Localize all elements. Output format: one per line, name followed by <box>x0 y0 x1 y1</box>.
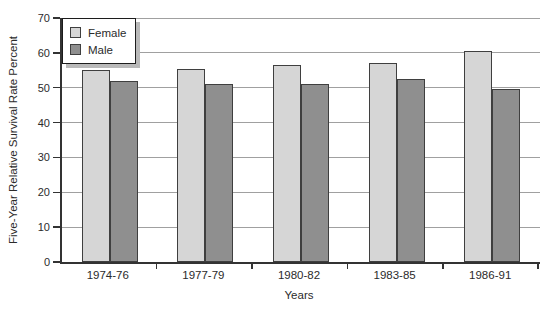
bar-male-1977-79 <box>205 84 233 262</box>
x-axis-tick-4 <box>442 264 444 269</box>
y-axis-tick-30 <box>53 157 60 159</box>
legend-item-female: Female <box>70 24 126 41</box>
y-axis-tick-60 <box>53 52 60 54</box>
x-tick-label-1983-85: 1983-85 <box>353 268 437 282</box>
legend-swatch-female <box>70 27 81 38</box>
y-tick-label-50: 50 <box>26 81 50 95</box>
y-tick-label-10: 10 <box>26 220 50 234</box>
x-axis-tick-1 <box>156 264 158 269</box>
y-axis-tick-0 <box>53 261 60 263</box>
y-tick-label-60: 60 <box>26 46 50 60</box>
legend-label-male: Male <box>88 44 113 56</box>
x-axis-tick-3 <box>347 264 349 269</box>
y-tick-label-30: 30 <box>26 150 50 164</box>
legend-label-female: Female <box>88 27 126 39</box>
y-axis-tick-40 <box>53 122 60 124</box>
x-axis-title: Years <box>285 289 314 301</box>
bar-male-1986-91 <box>492 89 520 262</box>
y-axis-tick-20 <box>53 192 60 194</box>
bar-female-1983-85 <box>369 63 397 262</box>
x-axis-tick-2 <box>251 264 253 269</box>
survival-rate-bar-chart: Five-Year Relative Survival Rate Percent… <box>0 0 550 311</box>
y-tick-label-0: 0 <box>26 255 50 269</box>
bar-male-1983-85 <box>397 79 425 262</box>
x-tick-label-1974-76: 1974-76 <box>66 268 150 282</box>
bar-female-1980-82 <box>273 65 301 262</box>
y-tick-label-40: 40 <box>26 116 50 130</box>
bar-female-1974-76 <box>82 70 110 262</box>
bar-female-1977-79 <box>177 69 205 262</box>
bar-female-1986-91 <box>464 51 492 262</box>
y-tick-label-70: 70 <box>26 11 50 25</box>
x-axis-tick-5 <box>537 264 539 269</box>
x-tick-label-1977-79: 1977-79 <box>161 268 245 282</box>
y-tick-label-20: 20 <box>26 185 50 199</box>
legend: Female Male <box>62 18 136 64</box>
x-tick-label-1980-82: 1980-82 <box>257 268 341 282</box>
bar-male-1980-82 <box>301 84 329 262</box>
legend-item-male: Male <box>70 41 126 58</box>
y-axis-tick-10 <box>53 226 60 228</box>
legend-swatch-male <box>70 44 81 55</box>
y-axis-tick-70 <box>53 17 60 19</box>
y-axis-tick-50 <box>53 87 60 89</box>
y-axis-title: Five-Year Relative Survival Rate Percent <box>7 36 19 244</box>
x-tick-label-1986-91: 1986-91 <box>448 268 532 282</box>
bar-male-1974-76 <box>110 81 138 262</box>
